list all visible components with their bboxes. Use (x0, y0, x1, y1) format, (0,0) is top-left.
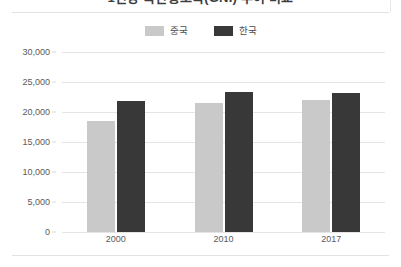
legend-label-korea: 한국 (239, 26, 257, 36)
y-tick-mark (52, 142, 56, 143)
x-tick-label: 2000 (106, 234, 126, 244)
y-tick-label: 15,000 (22, 137, 50, 147)
bar-group (195, 52, 253, 232)
y-tick-label: 20,000 (22, 107, 50, 117)
chart-title: 1인당 국민총소득(GNI) 추이 비교 (0, 0, 401, 6)
y-tick-mark (52, 172, 56, 173)
bar-group (302, 52, 360, 232)
legend-item-korea[interactable]: 한국 (214, 26, 257, 36)
y-tick-mark (52, 202, 56, 203)
x-tick-label: 2010 (213, 234, 233, 244)
legend-swatch-korea (214, 26, 233, 36)
title-divider (12, 12, 389, 13)
y-tick-label: 0 (45, 227, 50, 237)
y-tick-mark (52, 52, 56, 53)
gridline (62, 232, 385, 233)
plot-area (62, 52, 385, 232)
bar-중국-2000[interactable] (87, 121, 115, 232)
bottom-divider (12, 255, 389, 256)
legend-label-china: 중국 (170, 26, 188, 36)
y-tick-label: 5,000 (27, 197, 50, 207)
legend-item-china[interactable]: 중국 (145, 26, 188, 36)
bar-중국-2017[interactable] (302, 100, 330, 232)
y-axis: 30,00025,00020,00015,00010,0005,0000 (0, 52, 56, 232)
bar-중국-2010[interactable] (195, 103, 223, 232)
y-tick-label: 25,000 (22, 77, 50, 87)
y-tick-mark (52, 232, 56, 233)
right-edge-divider (390, 0, 391, 12)
y-tick-mark (52, 112, 56, 113)
legend-swatch-china (145, 26, 164, 36)
x-axis: 200020102017 (62, 234, 385, 250)
bar-한국-2000[interactable] (117, 101, 145, 232)
bar-한국-2017[interactable] (332, 93, 360, 232)
y-tick-label: 10,000 (22, 167, 50, 177)
bar-group (87, 52, 145, 232)
y-tick-mark (52, 82, 56, 83)
bars-layer (62, 52, 385, 232)
y-tick-label: 30,000 (22, 47, 50, 57)
bar-한국-2010[interactable] (225, 92, 253, 232)
x-tick-label: 2017 (321, 234, 341, 244)
chart-legend: 중국 한국 (0, 26, 401, 36)
bar-chart-figure: 1인당 국민총소득(GNI) 추이 비교 중국 한국 30,00025,0002… (0, 0, 401, 267)
